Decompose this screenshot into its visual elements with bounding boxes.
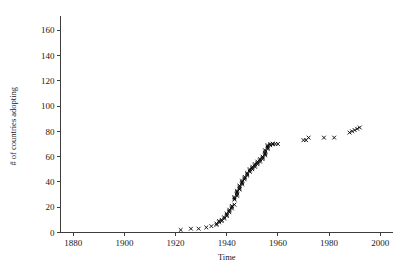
data-point-marker <box>179 228 183 232</box>
y-tick-label: 140 <box>41 51 55 61</box>
adoption-scatter-chart: 020406080100120140160 188019001920194019… <box>0 0 404 275</box>
chart-container: 020406080100120140160 188019001920194019… <box>0 0 404 275</box>
y-tick-label: 0 <box>50 228 55 238</box>
x-tick-group: 1880190019201940196019802000 <box>64 233 389 248</box>
x-axis: 1880190019201940196019802000 <box>61 233 394 248</box>
data-point-marker <box>204 226 208 230</box>
y-tick-label: 40 <box>46 177 56 187</box>
x-tick-label: 1980 <box>320 238 339 248</box>
x-tick-label: 1880 <box>64 238 83 248</box>
data-point-marker <box>210 224 214 228</box>
data-point-marker <box>332 136 336 140</box>
data-point-marker <box>197 227 201 231</box>
x-tick-label: 1940 <box>218 238 237 248</box>
y-tick-label: 160 <box>41 25 55 35</box>
y-tick-group: 020406080100120140160 <box>41 25 61 237</box>
data-point-marker <box>307 136 311 140</box>
x-tick-label: 2000 <box>371 238 390 248</box>
x-tick-label: 1920 <box>167 238 186 248</box>
y-tick-label: 80 <box>46 127 56 137</box>
y-tick-label: 120 <box>41 76 55 86</box>
data-point-marker <box>322 136 326 140</box>
y-tick-label: 100 <box>41 101 55 111</box>
x-tick-label: 1960 <box>269 238 288 248</box>
y-tick-label: 20 <box>46 202 56 212</box>
data-point-marker <box>276 142 280 146</box>
x-tick-label: 1900 <box>115 238 134 248</box>
data-point-group <box>179 126 362 232</box>
y-axis-title: # of countries adopting <box>8 86 18 165</box>
y-tick-label: 60 <box>46 152 56 162</box>
y-axis: 020406080100120140160 <box>41 16 61 238</box>
data-point-marker <box>189 227 193 231</box>
x-axis-title: Time <box>218 252 236 262</box>
